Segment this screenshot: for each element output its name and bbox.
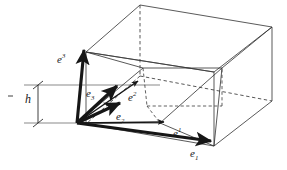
label-e-subscript-3: e3 xyxy=(86,88,94,102)
label-e-superscript-2: e2 xyxy=(128,91,136,103)
figure-canvas xyxy=(0,0,287,170)
vector-e-sub-3 xyxy=(77,86,117,123)
cell-edge-right-down xyxy=(214,68,222,146)
cell-upper-parallelogram xyxy=(77,68,222,123)
contravariant-vector-e3-group xyxy=(77,50,84,123)
box-top-face xyxy=(86,5,272,72)
cell-hidden-rear-vertical xyxy=(143,68,147,106)
label-e-superscript-1: e1 xyxy=(173,127,181,139)
box-edge-bottom-right xyxy=(214,101,272,146)
figure-basis-vectors: e3 e2 e1 e3 e2 e1 h xyxy=(0,0,287,170)
label-e-superscript-3: e3 xyxy=(57,53,65,65)
box-edge-upper-belt xyxy=(86,52,214,72)
outer-box-solid-edges xyxy=(86,5,272,146)
label-e-subscript-1: e1 xyxy=(190,148,198,162)
vector-e-sub-1 xyxy=(77,123,211,141)
label-e-subscript-2: e2 xyxy=(116,111,124,125)
covariant-vector-group xyxy=(77,86,211,141)
label-height-h: h xyxy=(25,93,31,105)
vector-e-sub-2 xyxy=(77,103,120,123)
box-hidden-bottom-rear-right xyxy=(140,76,272,101)
inner-cell-hidden-edges xyxy=(143,68,222,123)
cell-edge-right-up xyxy=(222,27,272,68)
cell-hidden-front-diag xyxy=(147,106,160,123)
vector-e-sup-3 xyxy=(77,50,84,123)
